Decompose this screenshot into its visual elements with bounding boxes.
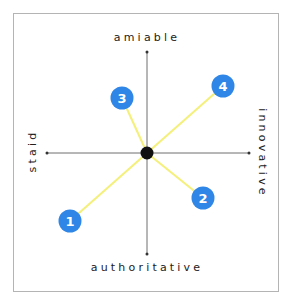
axis-label-left: staid [26, 130, 39, 173]
axis-label-top: amiable [0, 31, 294, 44]
connector-1 [70, 153, 147, 221]
axis-end-top [146, 51, 149, 54]
axis-label-right: innovative [256, 108, 269, 198]
diagram-canvas [0, 0, 294, 304]
center-dot [141, 147, 154, 160]
node-1[interactable]: 1 [59, 210, 82, 233]
node-2[interactable]: 2 [192, 187, 215, 210]
axis-end-right [248, 152, 251, 155]
axis-end-bottom [146, 253, 149, 256]
axis-end-left [46, 152, 49, 155]
axis-label-bottom: authoritative [0, 261, 294, 274]
node-4[interactable]: 4 [212, 75, 235, 98]
node-3[interactable]: 3 [111, 87, 134, 110]
connector-4 [147, 86, 223, 153]
